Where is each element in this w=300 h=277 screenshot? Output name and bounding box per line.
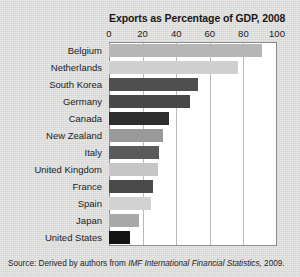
x-tick-label-100: 100 xyxy=(269,28,285,39)
bar-new-zealand xyxy=(109,129,163,142)
y-label-new-zealand: New Zealand xyxy=(2,130,102,141)
y-label-spain: Spain xyxy=(2,198,102,209)
source-note: Source: Derived by authors from IMF Inte… xyxy=(8,259,285,268)
bar-spain xyxy=(109,197,151,210)
bar-row xyxy=(109,127,277,144)
source-text-before: Derived by authors from xyxy=(39,259,126,268)
y-axis-category-labels: BelgiumNetherlandsSouth KoreaGermanyCana… xyxy=(4,42,106,246)
chart-title: Exports as Percentage of GDP, 2008 xyxy=(109,12,277,24)
bar-canada xyxy=(109,112,169,125)
x-tick-label-0: 0 xyxy=(106,28,111,39)
bar-row xyxy=(109,229,277,246)
y-label-germany: Germany xyxy=(2,96,102,107)
source-year: 2009. xyxy=(264,259,285,268)
x-axis-tick-labels: 020406080100 xyxy=(109,28,277,41)
y-label-netherlands: Netherlands xyxy=(2,62,102,73)
bar-row xyxy=(109,212,277,229)
bar-france xyxy=(109,180,153,193)
bar-south-korea xyxy=(109,78,198,91)
source-label: Source: xyxy=(8,259,36,268)
bar-row xyxy=(109,110,277,127)
x-tick-label-20: 20 xyxy=(137,28,148,39)
bars-container xyxy=(109,42,277,246)
bar-united-kingdom xyxy=(109,163,158,176)
bar-row xyxy=(109,161,277,178)
y-label-belgium: Belgium xyxy=(2,45,102,56)
bar-row xyxy=(109,93,277,110)
y-label-japan: Japan xyxy=(2,215,102,226)
bar-row xyxy=(109,42,277,59)
y-label-south-korea: South Korea xyxy=(2,79,102,90)
bar-row xyxy=(109,59,277,76)
x-tick-label-60: 60 xyxy=(205,28,216,39)
bar-row xyxy=(109,178,277,195)
bar-row xyxy=(109,195,277,212)
bar-germany xyxy=(109,95,190,108)
bar-belgium xyxy=(109,44,262,57)
x-tick-label-40: 40 xyxy=(171,28,182,39)
bar-row xyxy=(109,144,277,161)
x-tick-label-80: 80 xyxy=(238,28,249,39)
bar-netherlands xyxy=(109,61,238,74)
bar-row xyxy=(109,76,277,93)
source-publication: IMF International Financial Statistics, xyxy=(128,259,262,268)
y-label-united-kingdom: United Kingdom xyxy=(2,164,102,175)
bar-united-states xyxy=(109,231,130,244)
chart-page: Exports as Percentage of GDP, 2008 02040… xyxy=(0,0,300,277)
y-label-united-states: United States xyxy=(2,232,102,243)
y-label-italy: Italy xyxy=(2,147,102,158)
bar-italy xyxy=(109,146,159,159)
y-label-canada: Canada xyxy=(2,113,102,124)
bar-japan xyxy=(109,214,139,227)
y-label-france: France xyxy=(2,181,102,192)
